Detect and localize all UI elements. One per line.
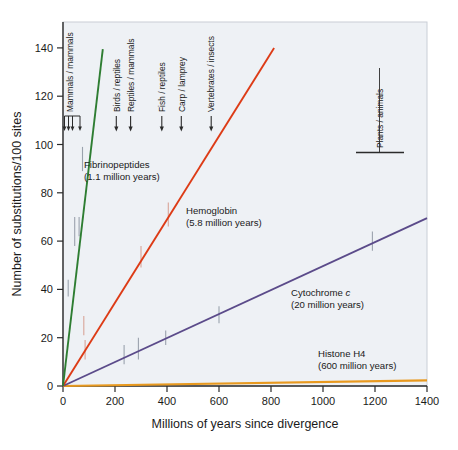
annotation-cytochrome-prefix: Cytochrome [291,287,345,298]
y-tick-label-20: 20 [41,332,53,344]
annotation-histone-name: Histone H4 [318,348,366,359]
x-tick-label-600: 600 [210,395,228,407]
x-tick-label-1200: 1200 [363,395,387,407]
x-tick-label-800: 800 [262,395,280,407]
event-label-vertebrates-insects: Vertebrates / insects [206,36,216,112]
annotation-fibrinopeptides-name: Fibrinopeptides [84,159,150,170]
annotation-fibrinopeptides: Fibrinopeptides (1.1 million years) [84,159,160,182]
event-label-fish-reptiles: Fish / reptiles [157,62,167,112]
annotation-cytochrome-name: Cytochrome c [291,287,350,298]
event-label-carp-lamprey: Carp / lamprey [177,56,187,112]
chart-svg: 0 20 40 60 80 100 120 140 Number of subs… [0,0,458,450]
y-tick-label-0: 0 [47,380,53,392]
event-label-birds-reptiles: Birds / reptiles [112,59,122,112]
y-tick-label-100: 100 [35,139,53,151]
y-tick-label-40: 40 [41,283,53,295]
x-tick-label-0: 0 [60,395,66,407]
x-tick-label-200: 200 [106,395,124,407]
x-axis-title: Millions of years since divergence [152,417,339,431]
annotation-hemoglobin-rate: (5.8 million years) [186,217,262,228]
event-label-reptiles-mammals: Reptiles / mammals [126,38,136,112]
annotation-hemoglobin-name: Hemoglobin [186,205,237,216]
annotation-cytochrome-rate: (20 million years) [291,299,364,310]
x-tick-label-400: 400 [158,395,176,407]
annotation-cytochrome-italic: c [345,287,350,298]
annotation-histone-rate: (600 million years) [318,360,396,371]
y-axis-title: Number of substitutions/100 sites [10,112,24,297]
y-tick-label-80: 80 [41,187,53,199]
y-tick-label-60: 60 [41,235,53,247]
y-tick-label-140: 140 [35,42,53,54]
annotation-fibrinopeptides-rate: (1.1 million years) [84,171,160,182]
event-label-plants-animals: Plants / animals [375,89,385,148]
y-tick-label-120: 120 [35,90,53,102]
x-tick-label-1400: 1400 [415,395,439,407]
x-tick-label-1000: 1000 [311,395,335,407]
evolutionary-rate-chart-figure: 0 20 40 60 80 100 120 140 Number of subs… [0,0,458,450]
event-label-mammals-mammals: Mammals / mammals [65,32,75,112]
